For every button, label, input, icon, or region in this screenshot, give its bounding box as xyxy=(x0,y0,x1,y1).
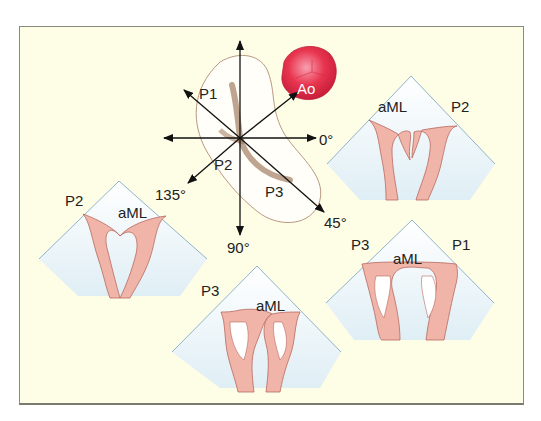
view-0-label-left: aML xyxy=(378,99,407,114)
echo-view-90deg xyxy=(172,266,341,392)
aorta-label: Ao xyxy=(297,81,315,96)
view-135-label-left: P2 xyxy=(65,193,83,208)
angle-label-90: 90° xyxy=(227,240,250,255)
view-45-label-right: P1 xyxy=(452,237,470,252)
scallop-label-p3: P3 xyxy=(265,184,283,199)
view-90-label-left: P3 xyxy=(201,283,219,298)
scallop-label-p2: P2 xyxy=(214,157,232,172)
view-90-label-right: aML xyxy=(256,298,285,313)
angle-label-135: 135° xyxy=(155,187,186,202)
angle-label-0: 0° xyxy=(319,132,333,147)
view-135-label-right: aML xyxy=(118,205,147,220)
echo-view-0deg xyxy=(327,76,495,200)
mitral-valve-diagram xyxy=(0,0,541,421)
scallop-label-p1: P1 xyxy=(199,86,217,101)
view-45-label-center: aML xyxy=(393,251,422,266)
view-45-label-left: P3 xyxy=(351,237,369,252)
angle-label-45: 45° xyxy=(324,215,347,230)
view-0-label-right: P2 xyxy=(451,99,469,114)
